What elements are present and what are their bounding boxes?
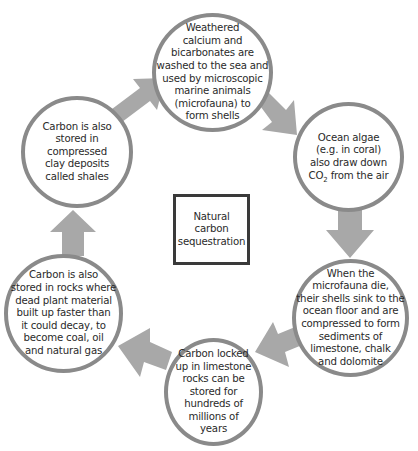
node-microfauna-die: When the microfauna die, their shells si… <box>292 259 409 377</box>
node-coal-oil-gas: Carbon is also stored in rocks where dea… <box>4 254 123 373</box>
arrow-coal-to-shales <box>50 210 96 256</box>
node-text: Carbon is also stored in rocks where dea… <box>11 269 116 357</box>
center-title-box: Natural carbon sequestration <box>173 194 250 265</box>
node-text: Carbon locked up in limestone rocks can … <box>176 348 252 436</box>
node-text: Weathered calcium and bicarbonates are w… <box>157 22 269 123</box>
node-ocean-algae: Ocean algae (e.g. in coral) also draw do… <box>293 102 404 212</box>
node-text: When the microfauna die, their shells si… <box>296 268 404 369</box>
node-weathered-calcium: Weathered calcium and bicarbonates are w… <box>152 13 273 132</box>
center-title: Natural carbon sequestration <box>178 211 245 249</box>
node-text: Carbon is also stored in compressed clay… <box>25 121 129 184</box>
node-limestone-storage: Carbon locked up in limestone rocks can … <box>164 338 263 446</box>
node-text: Ocean algae (e.g. in coral) also draw do… <box>309 132 389 182</box>
node-shales: Carbon is also stored in compressed clay… <box>21 96 133 208</box>
arrow-algae-to-microfauna <box>326 206 374 258</box>
arrow-limestone-to-coal <box>118 328 172 377</box>
